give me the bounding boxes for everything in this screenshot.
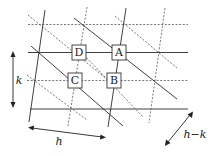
arrow-up-icon bbox=[11, 51, 16, 57]
arrow-down-icon bbox=[11, 102, 16, 108]
arrow-right-icon bbox=[100, 135, 106, 140]
lattice-diagram: D A C B k h h−k bbox=[0, 0, 212, 156]
arrow-left-icon bbox=[28, 126, 34, 131]
point-b: B bbox=[107, 73, 121, 88]
point-b-label: B bbox=[110, 74, 118, 87]
h-dimension-arrow: h bbox=[28, 126, 106, 148]
point-d: D bbox=[72, 45, 86, 60]
point-d-label: D bbox=[75, 46, 84, 59]
h-minus-k-label: h−k bbox=[184, 128, 207, 141]
point-c: C bbox=[68, 73, 82, 88]
point-c-label: C bbox=[71, 74, 79, 87]
h-minus-k-dimension-arrow: h−k bbox=[165, 112, 207, 147]
point-a: A bbox=[112, 45, 126, 60]
k-dimension-arrow: k bbox=[11, 51, 23, 108]
k-label: k bbox=[16, 74, 23, 87]
h-label: h bbox=[55, 135, 62, 148]
point-a-label: A bbox=[114, 46, 124, 59]
dashed-vertical-line bbox=[149, 8, 165, 123]
